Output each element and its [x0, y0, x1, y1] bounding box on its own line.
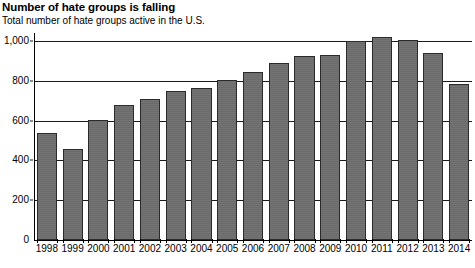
- bar-1999: [63, 149, 83, 240]
- x-tick-mark-2008: [294, 239, 295, 243]
- x-tick-mark-2007: [269, 239, 270, 243]
- x-tick-label-2006: 2006: [240, 243, 266, 255]
- x-tick-mark-2000: [88, 239, 89, 243]
- y-tick-dash-400: [30, 160, 33, 161]
- x-tick-label-2007: 2007: [266, 243, 292, 255]
- x-tick-label-2005: 2005: [214, 243, 240, 255]
- x-tick-label-2014: 2014: [446, 243, 472, 255]
- x-tick-mark-2005: [217, 239, 218, 243]
- x-tick-label-2012: 2012: [395, 243, 421, 255]
- x-tick-mark-2011: [372, 239, 373, 243]
- bar-2003: [166, 91, 186, 240]
- x-tick-mark-end-2006: [263, 239, 264, 243]
- bar-2013: [423, 53, 443, 240]
- y-tick-label-800: 800: [12, 76, 29, 86]
- x-tick-mark-end-1999: [83, 239, 84, 243]
- y-tick-label-0: 0: [23, 235, 29, 245]
- x-tick-mark-2001: [114, 239, 115, 243]
- bar-2004: [191, 88, 211, 240]
- bar-series: [34, 33, 472, 240]
- x-tick-mark-end-1998: [57, 239, 58, 243]
- bar-2006: [243, 72, 263, 240]
- y-tick-dash-600: [30, 120, 33, 121]
- x-tick-label-2009: 2009: [317, 243, 343, 255]
- x-tick-label-2008: 2008: [292, 243, 318, 255]
- x-tick-mark-2013: [423, 239, 424, 243]
- bar-1998: [37, 133, 57, 240]
- x-tick-mark-end-2002: [160, 239, 161, 243]
- x-tick-label-1999: 1999: [60, 243, 86, 255]
- chart-title: Number of hate groups is falling: [2, 0, 175, 14]
- x-tick-mark-end-2003: [186, 239, 187, 243]
- bar-2000: [88, 120, 108, 240]
- x-tick-mark-end-2013: [443, 239, 444, 243]
- x-tick-label-2010: 2010: [343, 243, 369, 255]
- y-tick-label-600: 600: [12, 116, 29, 126]
- y-tick-label-200: 200: [12, 195, 29, 205]
- y-tick-label-400: 400: [12, 155, 29, 165]
- x-axis-labels: 1998199920002001200220032004200520062007…: [34, 243, 472, 259]
- bar-2001: [114, 105, 134, 240]
- x-tick-mark-end-2014: [469, 239, 470, 243]
- bar-2012: [398, 40, 418, 240]
- gridline-0: [34, 240, 472, 241]
- bar-2014: [449, 84, 469, 240]
- x-tick-mark-2010: [346, 239, 347, 243]
- bar-2002: [140, 99, 160, 240]
- x-tick-mark-end-2010: [366, 239, 367, 243]
- chart-subtitle: Total number of hate groups active in th…: [2, 14, 205, 27]
- x-tick-mark-2006: [243, 239, 244, 243]
- bar-2007: [269, 63, 289, 240]
- x-tick-label-2001: 2001: [111, 243, 137, 255]
- hate-groups-bar-chart: Number of hate groups is falling Total n…: [0, 0, 475, 268]
- x-tick-label-2003: 2003: [163, 243, 189, 255]
- x-tick-mark-1999: [63, 239, 64, 243]
- x-tick-label-1998: 1998: [34, 243, 60, 255]
- x-tick-mark-2003: [166, 239, 167, 243]
- x-tick-mark-end-2009: [340, 239, 341, 243]
- x-tick-mark-2004: [191, 239, 192, 243]
- plot-area: [34, 33, 472, 240]
- x-tick-mark-end-2008: [315, 239, 316, 243]
- bar-2009: [320, 55, 340, 241]
- bar-2008: [294, 56, 314, 240]
- x-tick-mark-end-2000: [108, 239, 109, 243]
- y-tick-dash-1000: [30, 40, 33, 41]
- x-tick-label-2013: 2013: [420, 243, 446, 255]
- y-axis-line: [34, 33, 35, 241]
- x-tick-mark-2009: [320, 239, 321, 243]
- x-tick-mark-end-2005: [237, 239, 238, 243]
- x-tick-label-2000: 2000: [86, 243, 112, 255]
- x-tick-mark-2002: [140, 239, 141, 243]
- x-tick-label-2011: 2011: [369, 243, 395, 255]
- x-tick-mark-end-2012: [418, 239, 419, 243]
- x-tick-mark-end-2001: [134, 239, 135, 243]
- x-tick-label-2002: 2002: [137, 243, 163, 255]
- x-tick-mark-end-2007: [289, 239, 290, 243]
- y-axis-labels: 02004006008001,000: [0, 33, 29, 240]
- x-tick-mark-2012: [398, 239, 399, 243]
- bar-2011: [372, 37, 392, 240]
- x-tick-mark-1998: [37, 239, 38, 243]
- x-tick-mark-end-2004: [212, 239, 213, 243]
- bar-2010: [346, 41, 366, 240]
- bar-2005: [217, 80, 237, 240]
- y-tick-label-1000: 1,000: [4, 36, 29, 46]
- x-tick-label-2004: 2004: [189, 243, 215, 255]
- x-tick-mark-end-2011: [392, 239, 393, 243]
- y-tick-dash-200: [30, 200, 33, 201]
- y-tick-dash-800: [30, 80, 33, 81]
- x-tick-mark-2014: [449, 239, 450, 243]
